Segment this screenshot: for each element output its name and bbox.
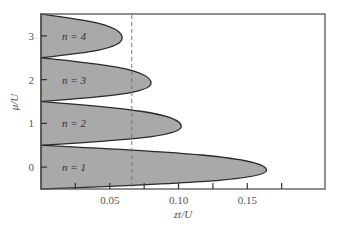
lobe-label-n2: n = 2 (62, 117, 86, 129)
lobe-label-n4: n = 4 (62, 30, 86, 42)
x-axis-title: zt/U (173, 208, 193, 220)
x-tick-label: 0.10 (169, 194, 189, 206)
x-tick-label: 0.05 (100, 194, 120, 206)
y-tick-label: 1 (29, 117, 35, 129)
y-tick-label: 3 (29, 30, 35, 42)
mott-lobe-chart: 0.050.100.15 0123 n = 1n = 2n = 3n = 4 z… (0, 0, 338, 227)
lobe-label-n3: n = 3 (62, 74, 86, 86)
y-tick-label: 0 (29, 161, 35, 173)
y-tick-label: 2 (29, 74, 35, 86)
x-tick-label: 0.15 (238, 194, 258, 206)
lobe-label-n1: n = 1 (62, 161, 86, 173)
lobe-n3 (41, 58, 151, 102)
y-axis-title: μ/U (8, 93, 20, 112)
